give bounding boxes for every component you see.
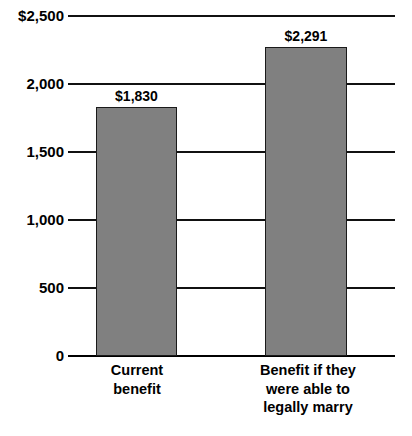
category-label-line-1: Benefit if they (238, 361, 378, 380)
ytick-label-2000: 2,000 (26, 76, 64, 91)
bar-chart: $2,500 2,000 1,500 1,000 500 0 $1,830 $2… (0, 0, 412, 436)
category-label-line-2: benefit (76, 380, 198, 399)
ytick-label-2500: $2,500 (18, 8, 64, 23)
bar-value-label-current-benefit: $1,830 (96, 89, 177, 103)
category-label-current-benefit: Current benefit (76, 361, 198, 398)
category-label-line-1: Current (76, 361, 198, 380)
bar-value-label-marriage-benefit: $2,291 (265, 29, 347, 43)
category-label-marriage-benefit: Benefit if they were able to legally mar… (238, 361, 378, 417)
gridline-2500 (68, 15, 395, 17)
ytick-label-1500: 1,500 (26, 144, 64, 159)
ytick-label-0: 0 (56, 348, 64, 363)
plot-area: $2,500 2,000 1,500 1,000 500 0 $1,830 $2… (0, 0, 412, 436)
category-label-line-3: legally marry (238, 398, 378, 417)
ytick-label-500: 500 (39, 280, 64, 295)
bar-marriage-benefit (265, 47, 347, 356)
category-label-line-2: were able to (238, 380, 378, 399)
ytick-label-1000: 1,000 (26, 212, 64, 227)
bar-current-benefit (96, 107, 177, 356)
